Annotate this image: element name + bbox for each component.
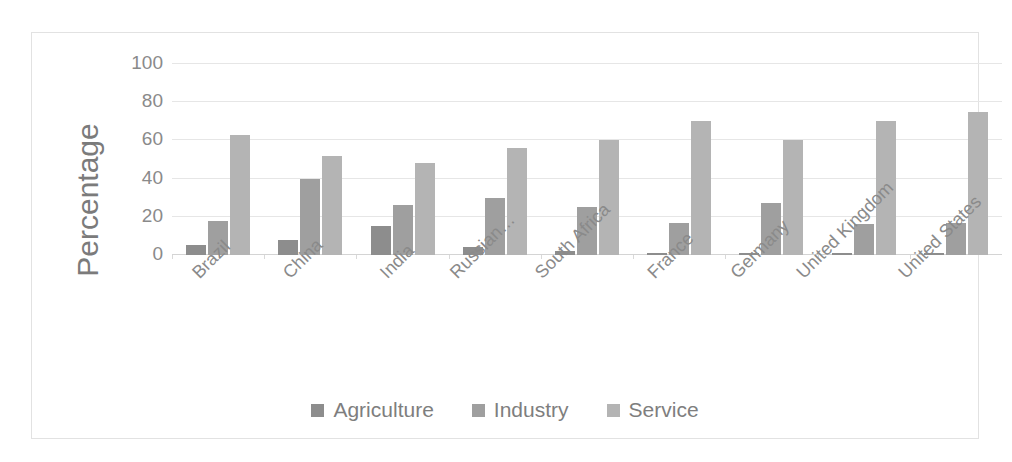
bar[interactable]	[371, 226, 391, 255]
bar[interactable]	[322, 156, 342, 255]
legend-label: Agriculture	[333, 398, 433, 422]
x-axis-label-cell: Brazil	[172, 259, 264, 369]
legend-item[interactable]: Service	[607, 398, 699, 422]
legend-label: Industry	[494, 398, 569, 422]
bar[interactable]	[507, 148, 527, 255]
bar-group	[356, 64, 448, 255]
bar[interactable]	[230, 135, 250, 255]
x-axis-label-cell: Russian…	[449, 259, 541, 369]
y-axis-tick-label: 80	[142, 90, 163, 112]
x-axis-label-cell: United Kingdom	[818, 259, 910, 369]
x-axis-label-cell: China	[264, 259, 356, 369]
bar-group	[172, 64, 264, 255]
x-axis-label-cell: United States	[910, 259, 1002, 369]
y-axis-tick-label: 40	[142, 167, 163, 189]
bar[interactable]	[599, 140, 619, 255]
x-axis-label-cell: France	[633, 259, 725, 369]
y-axis-tick-label: 60	[142, 128, 163, 150]
legend-swatch-icon	[607, 404, 620, 417]
chart-frame: Percentage 100806040200 BrazilChinaIndia…	[31, 32, 979, 439]
chart-page: Percentage 100806040200 BrazilChinaIndia…	[0, 0, 1012, 462]
y-axis-tick-label: 100	[131, 52, 163, 74]
bar[interactable]	[691, 121, 711, 255]
x-axis-label-cell: India	[356, 259, 448, 369]
bar[interactable]	[968, 112, 988, 255]
y-axis-tick-label: 0	[152, 243, 163, 265]
bar[interactable]	[415, 163, 435, 255]
x-axis-label-cell: South Africa	[541, 259, 633, 369]
x-axis-category-labels: BrazilChinaIndiaRussian…South AfricaFran…	[172, 259, 1002, 369]
y-axis-tick-label: 20	[142, 205, 163, 227]
y-axis-title: Percentage	[71, 80, 105, 320]
bar-group	[633, 64, 725, 255]
legend-label: Service	[629, 398, 699, 422]
bar-group	[264, 64, 356, 255]
chart-legend: AgricultureIndustryService	[32, 398, 978, 422]
legend-item[interactable]: Industry	[472, 398, 569, 422]
legend-swatch-icon	[472, 404, 485, 417]
legend-item[interactable]: Agriculture	[311, 398, 433, 422]
legend-swatch-icon	[311, 404, 324, 417]
